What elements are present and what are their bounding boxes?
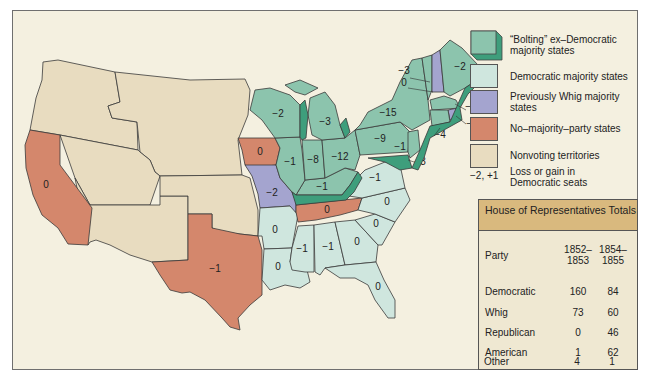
state-arkansas xyxy=(258,206,298,249)
legend-label-bolting: “Bolting” ex–Democratic majority states xyxy=(510,34,640,56)
label-south-carolina: 0 xyxy=(373,218,379,229)
seats-1854: 84 xyxy=(597,286,629,297)
house-totals-table: House of Representatives Totals Party 18… xyxy=(478,199,638,370)
label-missouri: −2 xyxy=(266,187,278,198)
label-mississippi: −1 xyxy=(296,243,308,254)
label-wisconsin: −2 xyxy=(272,108,284,119)
label-new-hampshire: 0 xyxy=(401,77,407,88)
seats-1854: 60 xyxy=(597,307,629,318)
legend-label-no-majority: No–majority–party states xyxy=(510,123,640,134)
legend-label-whig: Previously Whig majority states xyxy=(510,91,625,113)
label-georgia: 0 xyxy=(354,236,360,247)
no-majority-swatch-icon xyxy=(470,117,498,141)
label-louisiana: 0 xyxy=(275,261,281,272)
label-michigan: −3 xyxy=(319,116,331,127)
label-indiana: −8 xyxy=(307,154,319,165)
label-tennessee: 0 xyxy=(324,204,330,215)
party-name: Whig xyxy=(485,307,508,318)
header-1852-l2: 1853 xyxy=(563,255,593,266)
whig-swatch-icon xyxy=(470,90,498,114)
legend-item-nonvoting xyxy=(470,144,498,168)
label-maine: −2 xyxy=(454,61,466,72)
label-ohio: −12 xyxy=(332,151,349,162)
legend-seat-change-label: Loss or gain in Democratic seats xyxy=(510,166,605,188)
legend-seat-change-sample: −2, +1 xyxy=(470,170,498,181)
label-california: 0 xyxy=(43,179,49,190)
label-new-york: −15 xyxy=(380,107,397,118)
label-new-jersey: −1 xyxy=(394,141,406,152)
state-michigan-upper xyxy=(285,80,318,95)
party-name: Democratic xyxy=(485,286,536,297)
seats-1852: 0 xyxy=(563,327,593,338)
state-florida xyxy=(325,262,395,318)
legend-item-no-majority xyxy=(470,117,498,141)
label-florida: 0 xyxy=(375,281,381,292)
seats-1852: 4 xyxy=(562,356,592,367)
state-new-york xyxy=(355,58,430,130)
seats-1854: 1 xyxy=(596,356,628,367)
table-header-row: Party 1852– 1853 1854– 1855 xyxy=(485,244,633,270)
label-pennsylvania: −9 xyxy=(374,133,386,144)
table-title: House of Representatives Totals xyxy=(479,200,637,231)
label-illinois: −1 xyxy=(284,156,296,167)
label-north-carolina: 0 xyxy=(384,196,390,207)
label-virginia: −1 xyxy=(369,172,381,183)
legend-item-whig xyxy=(470,90,498,114)
party-name: Other xyxy=(484,356,509,367)
legend-label-democratic: Democratic majority states xyxy=(510,71,640,82)
legend-item-bolting xyxy=(470,30,504,62)
seats-1852: 73 xyxy=(563,307,593,318)
democratic-swatch-icon xyxy=(470,64,498,88)
label-kentucky: −1 xyxy=(316,181,328,192)
label-iowa: 0 xyxy=(257,146,263,157)
party-name: Republican xyxy=(485,327,535,338)
header-1854-l1: 1854– xyxy=(597,244,629,255)
nonvoting-swatch-icon xyxy=(470,144,498,168)
legend-item-democratic xyxy=(470,64,498,88)
label-texas: −1 xyxy=(209,263,221,274)
header-1852-l1: 1852– xyxy=(563,244,593,255)
label-arkansas: 0 xyxy=(272,224,278,235)
header-1854-l2: 1855 xyxy=(597,255,629,266)
legend-label-nonvoting: Nonvoting territories xyxy=(510,150,640,161)
state-massachusetts xyxy=(430,96,460,110)
bolting-swatch-icon xyxy=(470,30,504,62)
header-party: Party xyxy=(485,250,508,261)
seats-1852: 160 xyxy=(563,286,593,297)
label-vermont: −3 xyxy=(398,65,410,76)
label-alabama: −1 xyxy=(322,241,334,252)
seats-1854: 46 xyxy=(597,327,629,338)
